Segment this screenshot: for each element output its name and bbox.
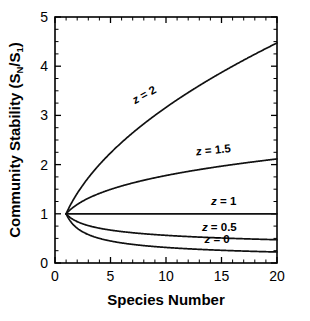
- curve-label-z-2: z = 2: [129, 83, 158, 106]
- faint-header-text: [58, 0, 258, 7]
- x-axis-title: Species Number: [107, 291, 225, 308]
- svg-text:Community Stability (SN/S1): Community Stability (SN/S1): [6, 42, 25, 238]
- curve-z-0: [66, 214, 277, 252]
- y-tick-label: 3: [40, 107, 48, 123]
- x-tick-label: 20: [269, 268, 285, 284]
- y-axis-title-mid: /S: [6, 53, 23, 67]
- curve-label-z-0-5: z = 0.5: [201, 221, 237, 233]
- curve-label-z-0: z = 0: [203, 233, 229, 245]
- curve-group: [66, 43, 277, 252]
- x-axis-tick-labels: 05101520: [51, 268, 285, 284]
- x-tick-label: 15: [214, 268, 230, 284]
- y-tick-label: 1: [40, 206, 48, 222]
- y-tick-label: 5: [40, 9, 48, 25]
- y-tick-label: 2: [40, 157, 48, 173]
- curve-label-z-1: z = 1: [210, 195, 237, 207]
- y-tick-label: 4: [40, 58, 48, 74]
- x-tick-label: 10: [158, 268, 174, 284]
- y-axis-title-main: Community Stability (S: [6, 74, 23, 238]
- y-axis-title: Community Stability (SN/S1): [6, 42, 25, 238]
- curve-z-0-5: [66, 214, 277, 240]
- chart-svg: Community Stability (SN/S1) 012345 05101…: [0, 0, 310, 321]
- y-axis-title-end: ): [6, 42, 23, 47]
- curve-z-2: [66, 43, 277, 214]
- x-tick-label: 5: [107, 268, 115, 284]
- figure-container: Community Stability (SN/S1) 012345 05101…: [0, 0, 310, 321]
- y-tick-label: 0: [40, 255, 48, 271]
- curve-label-z-1-5: z = 1.5: [194, 142, 232, 158]
- x-tick-label: 0: [51, 268, 59, 284]
- y-axis-tick-labels: 012345: [40, 9, 48, 271]
- curve-label-group: z = 2z = 1.5z = 1z = 0.5z = 0: [129, 83, 237, 245]
